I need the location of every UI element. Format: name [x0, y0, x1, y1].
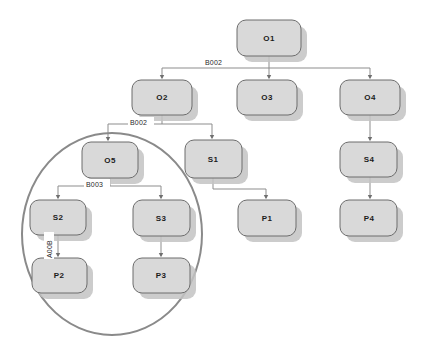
node-label: P1: [262, 214, 273, 223]
node-label: P4: [364, 214, 375, 223]
edge-label-o2-bus-group: B002: [128, 117, 154, 127]
node-o3[interactable]: O3: [237, 80, 303, 121]
node-label: S4: [364, 155, 375, 164]
node-p4[interactable]: P4: [340, 200, 403, 242]
node-label: P3: [156, 271, 167, 280]
node-label: O4: [364, 93, 376, 102]
node-label: O2: [156, 93, 168, 102]
node-p3[interactable]: P3: [133, 258, 196, 299]
node-o1[interactable]: O1: [237, 20, 307, 62]
node-label: S3: [156, 214, 167, 223]
node-label: O1: [263, 34, 275, 43]
edge-label-s2-p2: A00B: [46, 240, 53, 258]
node-label: S1: [208, 155, 219, 164]
edge-label-o5-bus-group: B003: [84, 179, 110, 189]
edge-label-o1-bus-group: B002: [203, 57, 229, 67]
edge-label-o2-bus: B002: [130, 119, 147, 126]
node-label: S2: [53, 213, 64, 222]
node-s4[interactable]: S4: [340, 142, 403, 183]
edge-label-s2-p2-group: A00B: [44, 232, 54, 259]
node-label: P2: [54, 271, 65, 280]
node-o4[interactable]: O4: [340, 80, 406, 121]
edge-label-o1-bus: B002: [205, 59, 222, 66]
node-p1[interactable]: P1: [238, 200, 302, 242]
diagram-canvas: O1 O2 O3 O4 O5: [0, 0, 427, 349]
edge-label-o5-bus: B003: [86, 181, 103, 188]
node-label: O5: [104, 156, 116, 165]
node-s3[interactable]: S3: [133, 200, 196, 242]
node-s2[interactable]: S2: [30, 200, 92, 241]
diagram-svg: O1 O2 O3 O4 O5: [0, 0, 427, 349]
node-label: O3: [261, 93, 273, 102]
node-p2[interactable]: P2: [32, 258, 93, 299]
node-o5[interactable]: O5: [82, 142, 144, 184]
node-o2[interactable]: O2: [132, 80, 198, 121]
node-s1[interactable]: S1: [185, 140, 248, 184]
